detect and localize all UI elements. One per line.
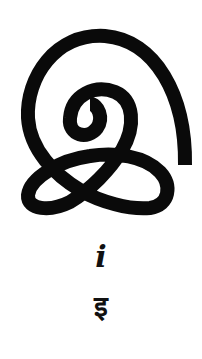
- latin-transliteration: i: [0, 240, 202, 274]
- devanagari-letter: इ: [0, 290, 202, 324]
- spiral-knot-glyph-icon: [0, 0, 202, 220]
